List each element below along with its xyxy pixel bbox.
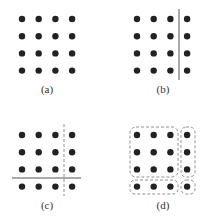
grid-dot [151, 50, 157, 56]
grid-dot [184, 132, 190, 138]
panel-c [12, 124, 81, 196]
grid-dot [167, 166, 173, 172]
grid-dot [134, 132, 140, 138]
grid-dot [69, 183, 75, 189]
grid-dot [69, 50, 75, 56]
grid-dot [19, 16, 25, 22]
panel-b [134, 9, 191, 80]
grid-dot [167, 16, 173, 22]
grid-dot [19, 50, 25, 56]
grid-dot [52, 183, 58, 189]
panel-d [130, 127, 195, 194]
grid-dot [184, 183, 190, 189]
grid-dot [167, 132, 173, 138]
diagram-canvas: (a) (b) (c) (d) [0, 0, 205, 220]
grid-dot [69, 166, 75, 172]
grid-dot [167, 183, 173, 189]
grid-dot [167, 149, 173, 155]
grid-dot [52, 16, 58, 22]
grid-dot [167, 33, 173, 39]
grid-dot [151, 33, 157, 39]
grid-dot [19, 67, 25, 73]
grid-dot [19, 149, 25, 155]
grid-dot [134, 16, 140, 22]
grid-dot [52, 67, 58, 73]
grid-dot [19, 166, 25, 172]
grid-dot [167, 50, 173, 56]
grid-dot [52, 166, 58, 172]
grid-dot [19, 183, 25, 189]
grid-dot [36, 132, 42, 138]
grid-dot [184, 50, 190, 56]
grid-dot [19, 33, 25, 39]
grid-dot [184, 16, 190, 22]
grid-dot [52, 33, 58, 39]
grid-dot [151, 183, 157, 189]
grid-dot [151, 132, 157, 138]
grid-dot [36, 50, 42, 56]
grid-dot [134, 50, 140, 56]
grid-dot [184, 166, 190, 172]
grid-dot [167, 67, 173, 73]
grid-dot [134, 166, 140, 172]
grid-dot [184, 33, 190, 39]
grid-dot [69, 149, 75, 155]
grid-dot [134, 183, 140, 189]
grid-dot [151, 16, 157, 22]
grid-dot [151, 149, 157, 155]
grid-dot [19, 132, 25, 138]
grid-dot [69, 67, 75, 73]
panel-label-a: (a) [41, 83, 54, 96]
grid-dot [151, 166, 157, 172]
grid-dot [36, 166, 42, 172]
grid-dot [36, 67, 42, 73]
grid-dot [52, 132, 58, 138]
grid-dot [134, 67, 140, 73]
grid-dot [52, 50, 58, 56]
panel-label-d: (d) [157, 199, 170, 212]
grid-dot [69, 132, 75, 138]
grid-dot [151, 67, 157, 73]
grid-dot [69, 33, 75, 39]
panel-label-c: (c) [41, 199, 54, 212]
grid-dot [134, 149, 140, 155]
panel-label-b: (b) [157, 83, 170, 96]
grid-dot [36, 183, 42, 189]
grid-dot [52, 149, 58, 155]
grid-dot [36, 16, 42, 22]
grid-dot [184, 149, 190, 155]
grid-dot [36, 33, 42, 39]
grid-dot [134, 33, 140, 39]
grid-dot [184, 67, 190, 73]
panel-a [19, 16, 76, 74]
grid-dot [69, 16, 75, 22]
grid-dot [36, 149, 42, 155]
